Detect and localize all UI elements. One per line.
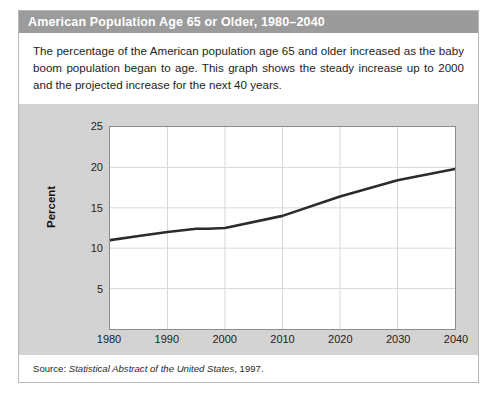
y-tick-label: 15	[79, 202, 103, 214]
figure-caption: The percentage of the American populatio…	[19, 33, 478, 101]
x-tick-label: 1980	[97, 333, 121, 345]
source-year: , 1997.	[234, 363, 263, 374]
plot-area	[109, 126, 456, 330]
x-axis-tick-labels: 1980199020002010202020302040	[109, 333, 456, 351]
x-tick-label: 2030	[386, 333, 410, 345]
page-title: American Population Age 65 or Older, 198…	[28, 15, 325, 29]
y-tick-label: 25	[79, 120, 103, 132]
y-tick-label: 20	[79, 161, 103, 173]
chart-band: Percent 510152025 1980199020002010202020…	[19, 104, 478, 355]
source-title: Statistical Abstract of the United State…	[69, 363, 234, 374]
x-tick-label: 1990	[155, 333, 179, 345]
y-tick-label: 5	[79, 283, 103, 295]
x-tick-label: 2000	[212, 333, 236, 345]
y-axis-tick-labels: 510152025	[77, 126, 103, 330]
data-line-series	[110, 127, 455, 329]
y-axis-title: Percent	[45, 186, 57, 228]
figure-container: American Population Age 65 or Older, 198…	[18, 10, 479, 383]
source-note: Source: Statistical Abstract of the Unit…	[33, 363, 264, 374]
figure-title-bar: American Population Age 65 or Older, 198…	[19, 11, 478, 33]
x-tick-label: 2020	[328, 333, 352, 345]
y-tick-label: 10	[79, 242, 103, 254]
source-label: Source:	[33, 363, 66, 374]
x-tick-label: 2010	[270, 333, 294, 345]
x-tick-label: 2040	[444, 333, 468, 345]
